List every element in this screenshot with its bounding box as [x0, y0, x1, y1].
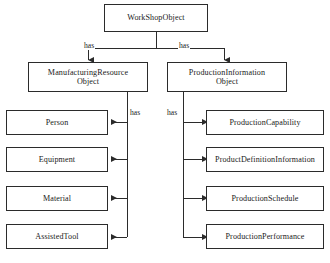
node-productioncapability-label: ProductionCapability [227, 118, 302, 127]
edge-label-root-to-production: has [178, 42, 190, 50]
edge-label-production-to-children: has [166, 109, 178, 117]
edge-label-manufacturing-to-children: has [129, 109, 141, 117]
node-manufacturingresourceobject-label: ManufacturingResource Object [46, 68, 130, 86]
node-manufacturingresourceobject[interactable]: ManufacturingResource Object [28, 62, 148, 92]
node-assistedtool[interactable]: AssistedTool [6, 224, 108, 249]
node-productionschedule[interactable]: ProductionSchedule [206, 186, 324, 211]
node-assistedtool-label: AssistedTool [33, 232, 80, 241]
edge-label-root-to-manufacturing: has [83, 42, 95, 50]
diagram-canvas: WorkShopObject ManufacturingResource Obj… [0, 0, 330, 263]
node-equipment-label: Equipment [37, 155, 77, 164]
node-productdefinitioninformation-label: ProductDefinitionInformation [213, 155, 317, 164]
node-workshopobject[interactable]: WorkShopObject [104, 4, 208, 32]
node-person-label: Person [44, 118, 71, 127]
node-person[interactable]: Person [6, 110, 108, 135]
node-material-label: Material [41, 194, 73, 203]
node-productioninformationobject[interactable]: ProductionInformation Object [167, 62, 287, 92]
node-productioncapability[interactable]: ProductionCapability [206, 110, 324, 135]
node-material[interactable]: Material [6, 186, 108, 211]
node-workshopobject-label: WorkShopObject [125, 13, 186, 22]
node-productionschedule-label: ProductionSchedule [230, 194, 301, 203]
node-productdefinitioninformation[interactable]: ProductDefinitionInformation [206, 147, 324, 172]
node-productionperformance[interactable]: ProductionPerformance [206, 224, 324, 249]
node-productionperformance-label: ProductionPerformance [224, 232, 307, 241]
node-equipment[interactable]: Equipment [6, 147, 108, 172]
node-productioninformationobject-label: ProductionInformation Object [187, 68, 267, 86]
